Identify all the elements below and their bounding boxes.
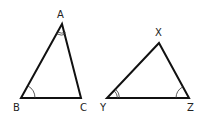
triangle-xyz-outline — [107, 43, 189, 98]
vertex-label-c: C — [80, 102, 87, 113]
vertex-label-y: Y — [99, 102, 107, 113]
vertex-label-x: X — [155, 27, 162, 38]
triangle-abc: A B C — [13, 9, 87, 113]
vertex-label-z: Z — [187, 102, 194, 113]
angle-b-arc — [28, 86, 35, 98]
vertex-label-b: B — [13, 102, 20, 113]
triangle-xyz: X Y Z — [99, 27, 194, 113]
angle-y-arc-inner — [114, 91, 118, 98]
vertex-label-a: A — [57, 9, 64, 20]
similar-triangles-diagram: A B C X Y Z — [0, 0, 200, 125]
angle-z-arc — [176, 87, 183, 98]
